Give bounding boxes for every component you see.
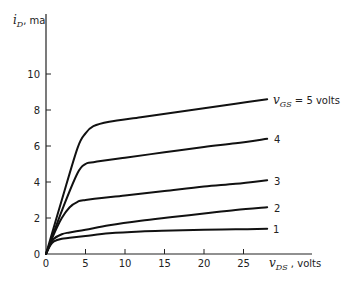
curve-label-4: 4: [274, 134, 280, 145]
curve-label-3: 3: [274, 176, 280, 187]
curve-label-1: 1: [273, 224, 279, 235]
svg-text:8: 8: [34, 105, 40, 116]
curves: [46, 99, 267, 254]
svg-text:6: 6: [34, 141, 40, 152]
svg-text:4: 4: [34, 177, 40, 188]
curve-1: [46, 229, 267, 254]
y-axis-label: iD, ma: [13, 13, 46, 29]
svg-text:vDS , volts: vDS , volts: [269, 256, 321, 272]
curve-label-2: 2: [274, 203, 280, 214]
x-tick-labels: 0 5 10 15 20 25: [43, 258, 250, 269]
y-ticks: [46, 74, 51, 218]
y-tick-labels: 0 2 4 6 8 10: [27, 69, 40, 260]
svg-text:0: 0: [34, 249, 40, 260]
svg-text:10: 10: [119, 258, 132, 269]
mosfet-characteristic-chart: 0 2 4 6 8 10 0 5 10 15 20 25 iD, ma vDS …: [0, 0, 347, 283]
svg-text:10: 10: [27, 69, 40, 80]
x-axis-label: vDS , volts: [269, 256, 321, 272]
svg-text:15: 15: [158, 258, 171, 269]
svg-text:20: 20: [198, 258, 211, 269]
svg-text:0: 0: [43, 258, 49, 269]
curve-label-vgs5: vGS = 5 volts: [273, 93, 340, 109]
svg-text:25: 25: [237, 258, 250, 269]
curve-3: [46, 180, 267, 254]
svg-text:2: 2: [34, 213, 40, 224]
svg-text:iD, ma: iD, ma: [13, 13, 46, 29]
svg-text:5: 5: [82, 258, 88, 269]
x-ticks: [86, 249, 244, 254]
curve-labels: vGS = 5 volts 4 3 2 1: [273, 93, 340, 235]
